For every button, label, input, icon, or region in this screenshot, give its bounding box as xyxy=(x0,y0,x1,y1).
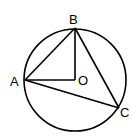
label-a: A xyxy=(10,74,19,89)
label-b: B xyxy=(69,12,78,27)
label-o: O xyxy=(78,73,88,88)
segment-bc xyxy=(75,28,119,108)
diagram-canvas: A B O C xyxy=(0,0,132,139)
segment-ca xyxy=(25,80,119,108)
geometry-diagram: A B O C xyxy=(0,0,132,139)
label-c: C xyxy=(120,105,129,120)
